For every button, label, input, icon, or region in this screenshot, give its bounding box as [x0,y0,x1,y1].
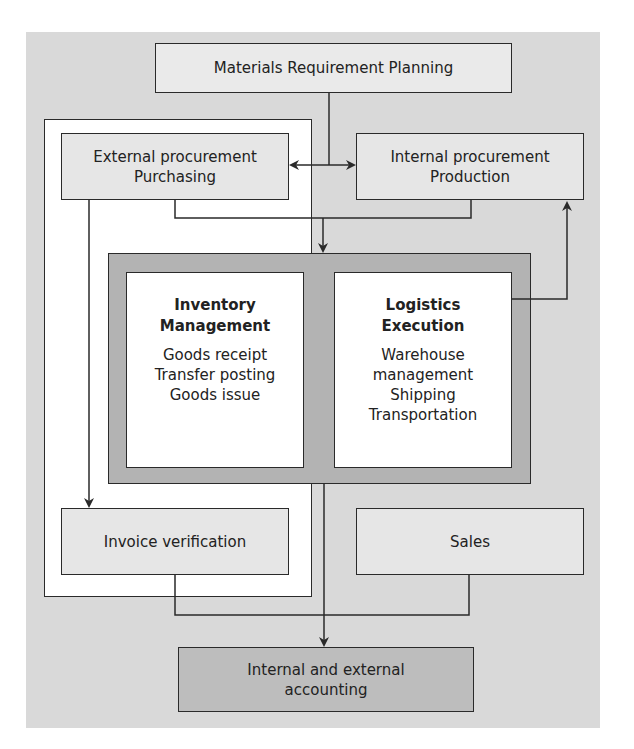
connector-lines [0,0,634,749]
